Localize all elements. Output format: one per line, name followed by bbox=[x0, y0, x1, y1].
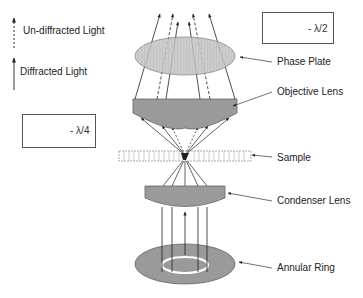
legend-undiffracted-label: Un-diffracted Light bbox=[23, 25, 105, 37]
leader-lines bbox=[228, 57, 272, 268]
label-objective-lens: Objective Lens bbox=[277, 86, 343, 98]
phase-contrast-diagram bbox=[0, 0, 363, 298]
label-annular-ring: Annular Ring bbox=[277, 262, 335, 274]
phase-box-quarter-wave-label: - λ/4 bbox=[70, 125, 89, 137]
phase-box-half-wave-label: - λ/2 bbox=[308, 23, 327, 35]
label-sample: Sample bbox=[277, 152, 311, 164]
condenser-lens bbox=[145, 186, 225, 207]
label-condenser-lens: Condenser Lens bbox=[277, 195, 350, 207]
legend-diffracted-label: Diffracted Light bbox=[20, 66, 87, 78]
condenser-to-sample-rays bbox=[163, 158, 207, 186]
phase-plate bbox=[135, 37, 235, 75]
sample-slide bbox=[119, 151, 251, 161]
label-phase-plate: Phase Plate bbox=[277, 56, 331, 68]
